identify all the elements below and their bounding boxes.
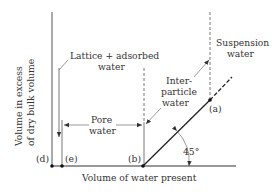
point-d (50, 164, 54, 168)
x-axis-label: Volume of water present (81, 172, 197, 183)
y-axis-label-line1: Volume in excess (13, 66, 24, 147)
point-a (208, 98, 212, 102)
point-a-label: (a) (209, 103, 222, 114)
interparticle-leader-bottom (146, 108, 161, 124)
suspension-label-line1: Suspension (216, 37, 269, 48)
point-e-label: (e) (65, 153, 78, 164)
angle-label: 45° (183, 146, 199, 157)
water-volume-diagram: Volume in excess of dry bulk volume Volu… (0, 0, 277, 194)
y-axis-label-line2: of dry bulk volume (25, 59, 36, 146)
diagonal-dashed (210, 77, 232, 100)
pore-label-line1: Pore (91, 114, 112, 125)
suspension-label-line2: water (227, 48, 254, 59)
diagonal-solid (143, 100, 210, 166)
interparticle-label-line3: water (162, 97, 189, 108)
lattice-leader (59, 60, 68, 70)
point-b (141, 164, 145, 168)
interparticle-label-line2: particle (161, 86, 197, 97)
lattice-label-line1: Lattice + adsorbed (70, 50, 159, 61)
interparticle-leader-top (194, 60, 209, 77)
point-b-label: (b) (128, 153, 141, 164)
interparticle-label-line1: Inter- (166, 75, 192, 86)
point-e (60, 164, 64, 168)
lattice-label-line2: water (98, 61, 125, 72)
point-d-label: (d) (36, 153, 49, 164)
pore-label-line2: water (89, 125, 116, 136)
